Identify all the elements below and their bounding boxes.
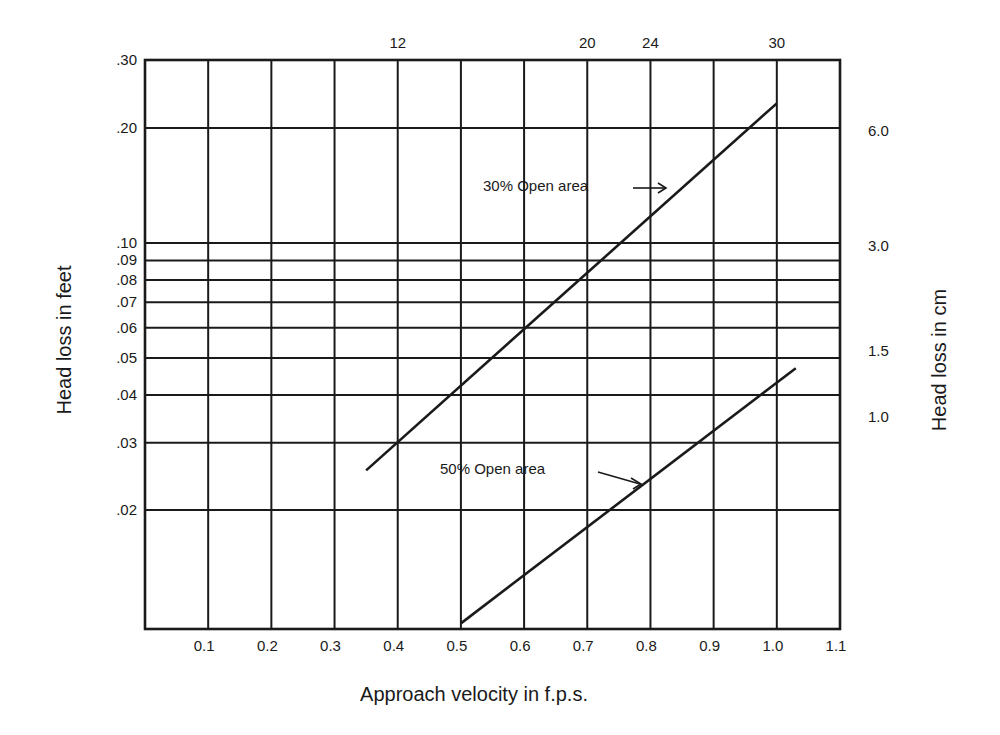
annotation-30-open-area: 30% Open area [483, 177, 589, 194]
y-axis-title-right: Head loss in cm [928, 289, 950, 431]
vertical-gridlines [208, 60, 777, 629]
y-axis-ticks-right: 6.03.01.51.0 [868, 122, 889, 426]
x-axis-title: Approach velocity in f.p.s. [360, 683, 588, 705]
x-axis-ticks-bottom: 0.10.20.30.40.50.60.70.80.91.01.1 [194, 637, 847, 654]
y-tick-label: .07 [116, 293, 137, 310]
y-tick-label: .04 [116, 386, 137, 403]
x-tick-label: 0.6 [510, 637, 531, 654]
x-tick-label: 0.3 [320, 637, 341, 654]
x-tick-label: 0.7 [573, 637, 594, 654]
x-axis-ticks-top: 12202430 [389, 34, 785, 51]
plot-frame [145, 60, 840, 629]
arrow-50 [598, 472, 640, 484]
y-tick-label: .20 [116, 119, 137, 136]
y-tick-label: .06 [116, 319, 137, 336]
x-tick-label: 0.9 [699, 637, 720, 654]
x-tick-label: 0.2 [257, 637, 278, 654]
y-tick-label: .08 [116, 271, 137, 288]
x-tick-label: 1.0 [762, 637, 783, 654]
top-tick-label: 24 [642, 34, 659, 51]
x-tick-label: 1.1 [826, 637, 847, 654]
right-tick-label: 3.0 [868, 237, 889, 254]
top-tick-label: 12 [389, 34, 406, 51]
annotation-50-open-area: 50% Open area [440, 460, 546, 477]
y-tick-label: .02 [116, 501, 137, 518]
x-tick-label: 0.4 [383, 637, 404, 654]
x-tick-label: 0.1 [194, 637, 215, 654]
y-axis-ticks-left: .30.20.10.09.08.07.06.05.04.03.02 [116, 51, 137, 518]
right-tick-label: 1.0 [868, 408, 889, 425]
x-tick-label: 0.8 [636, 637, 657, 654]
y-tick-label: .05 [116, 349, 137, 366]
x-tick-label: 0.5 [446, 637, 467, 654]
right-tick-label: 6.0 [868, 122, 889, 139]
y-tick-label: .30 [116, 51, 137, 68]
top-tick-label: 30 [768, 34, 785, 51]
y-axis-title-left: Head loss in feet [53, 265, 75, 414]
y-tick-label: .09 [116, 251, 137, 268]
series-line [461, 368, 796, 623]
y-tick-label: .10 [116, 234, 137, 251]
right-tick-label: 1.5 [868, 342, 889, 359]
chart-canvas: .30.20.10.09.08.07.06.05.04.03.02 0.10.2… [0, 0, 1000, 735]
top-tick-label: 20 [579, 34, 596, 51]
series-line [366, 103, 777, 470]
y-tick-label: .03 [116, 434, 137, 451]
